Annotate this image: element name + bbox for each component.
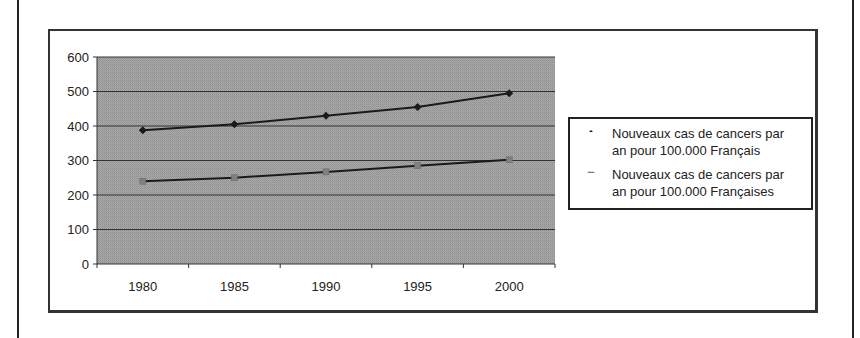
y-tick-label: 100	[67, 222, 89, 237]
data-point-marker	[140, 178, 146, 184]
y-axis-tick-labels: 0100200300400500600	[67, 50, 89, 272]
data-point-marker	[231, 175, 237, 181]
y-tick-label: 500	[67, 84, 89, 99]
legend-label-francaises: Nouveaux cas de cancers par an pour 100.…	[612, 166, 784, 200]
legend-label-francais: Nouveaux cas de cancers par an pour 100.…	[612, 125, 784, 159]
diamond-marker-icon	[573, 128, 607, 132]
y-tick-label: 400	[67, 119, 89, 134]
x-tick-label: 1980	[128, 279, 157, 294]
legend-label-line1: Nouveaux cas de cancers par	[612, 125, 784, 142]
legend-label-line1: Nouveaux cas de cancers par	[612, 166, 784, 183]
data-point-marker	[323, 169, 329, 175]
y-tick-label: 200	[67, 188, 89, 203]
legend: Nouveaux cas de cancers par an pour 100.…	[568, 117, 813, 210]
data-point-marker	[506, 157, 512, 163]
y-tick-label: 600	[67, 50, 89, 65]
x-tick-label: 1995	[403, 279, 432, 294]
square-marker-icon	[573, 169, 607, 173]
y-tick-label: 300	[67, 153, 89, 168]
x-tick-label: 1990	[312, 279, 341, 294]
legend-label-line2: an pour 100.000 Français	[612, 142, 784, 159]
x-axis-tick-labels: 19801985199019952000	[128, 279, 523, 294]
x-tick-label: 1985	[220, 279, 249, 294]
y-tick-label: 0	[82, 257, 89, 272]
legend-label-line2: an pour 100.000 Françaises	[612, 183, 784, 200]
x-tick-label: 2000	[495, 279, 524, 294]
data-point-marker	[415, 163, 421, 169]
